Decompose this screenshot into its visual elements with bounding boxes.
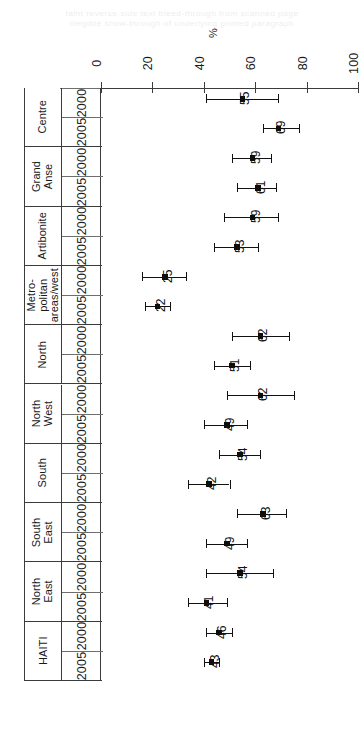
year-label: 2005 xyxy=(75,592,89,621)
data-point-value-label: 61 xyxy=(254,180,268,194)
error-bar-cap xyxy=(227,598,228,607)
error-bar-cap xyxy=(188,598,189,607)
region-group-row: SouthEast20002005 xyxy=(25,503,102,562)
data-point-value-label: 42 xyxy=(205,477,219,491)
year-cell: 2005 xyxy=(62,592,103,621)
data-point-value-label: 46 xyxy=(215,625,229,639)
x-axis-tick-label: 60 xyxy=(244,43,258,83)
year-cell: 2005 xyxy=(62,236,103,265)
year-cell: 2000 xyxy=(62,325,103,354)
region-group-row: Metro-politanareas/west20002005 xyxy=(25,266,102,325)
year-column: 20002005 xyxy=(61,503,102,561)
error-bar-cap xyxy=(247,539,248,548)
error-bar-cap xyxy=(271,154,272,163)
error-bar-line xyxy=(206,633,232,634)
data-point-marker xyxy=(250,215,256,221)
data-point-value-label: 62 xyxy=(256,388,270,402)
data-point-value-label: 59 xyxy=(249,150,263,164)
data-point-marker xyxy=(237,570,243,576)
year-cell: 2000 xyxy=(62,503,103,532)
error-bar-cap xyxy=(219,658,220,667)
year-cell: 2005 xyxy=(62,295,103,324)
error-bar-cap xyxy=(214,243,215,252)
error-bar-cap xyxy=(206,539,207,548)
year-label: 2005 xyxy=(75,474,89,503)
data-point-marker xyxy=(224,541,230,547)
year-label: 2005 xyxy=(75,355,89,384)
year-cell: 2000 xyxy=(62,147,103,176)
error-bar-cap xyxy=(250,361,251,370)
x-axis-tick xyxy=(204,82,205,93)
data-point-value-label: 49 xyxy=(223,536,237,550)
region-name-label: Centre xyxy=(25,88,61,146)
year-cell: 2000 xyxy=(62,266,103,295)
data-point-marker xyxy=(224,422,230,428)
error-bar-cap xyxy=(278,213,279,222)
error-bar-line xyxy=(188,484,229,485)
year-cell: 2005 xyxy=(62,117,103,146)
year-label: 2005 xyxy=(75,236,89,265)
year-column: 20002005 xyxy=(61,325,102,383)
year-cell: 2005 xyxy=(62,354,103,383)
region-name-label: South xyxy=(25,444,61,502)
error-bar-cap xyxy=(224,213,225,222)
error-bar-cap xyxy=(263,124,264,133)
data-point-marker xyxy=(258,333,264,339)
year-column: 20002005 xyxy=(61,266,102,324)
year-label: 2000 xyxy=(75,88,89,117)
error-bar-line xyxy=(237,514,286,515)
year-cell: 2000 xyxy=(62,562,103,591)
data-point-marker xyxy=(206,481,212,487)
year-label: 2000 xyxy=(75,622,89,651)
year-label: 2000 xyxy=(75,148,89,177)
error-bar-line xyxy=(224,217,278,218)
year-label: 2005 xyxy=(75,533,89,562)
data-point-marker xyxy=(276,126,282,132)
data-point-value-label: 59 xyxy=(249,210,263,224)
error-bar-line xyxy=(188,603,227,604)
year-cell: 2005 xyxy=(62,651,103,680)
error-bar-cap xyxy=(237,183,238,192)
region-group-row: HAITI20002005 xyxy=(25,622,102,681)
data-point-marker xyxy=(258,393,264,399)
year-cell: 2000 xyxy=(62,88,103,117)
error-bar-cap xyxy=(294,391,295,400)
year-label: 2005 xyxy=(75,652,89,681)
data-point-marker xyxy=(155,304,161,310)
data-point-marker xyxy=(162,274,168,280)
year-label: 2000 xyxy=(75,563,89,592)
year-cell: 2005 xyxy=(62,532,103,561)
error-bar-cap xyxy=(142,272,143,281)
error-bar-cap xyxy=(278,94,279,103)
data-point-value-label: 43 xyxy=(208,654,222,668)
x-axis-tick-label: 20 xyxy=(141,43,155,83)
year-column: 20002005 xyxy=(61,622,102,680)
x-axis-tick-label: 100 xyxy=(347,43,361,83)
error-bar-line xyxy=(206,544,247,545)
error-bar-line xyxy=(232,158,271,159)
data-point-value-label: 55 xyxy=(238,91,252,105)
chart-figure: faint reverse-side text bleed-through fr… xyxy=(0,0,364,753)
data-point-value-label: 51 xyxy=(228,358,242,372)
error-bar-cap xyxy=(206,628,207,637)
error-bar-cap xyxy=(276,183,277,192)
x-axis-line xyxy=(101,88,358,89)
row-label-table: Centre20002005GrandAnse20002005Artibonit… xyxy=(24,88,101,681)
year-column: 20002005 xyxy=(61,88,102,146)
error-bar-line xyxy=(214,366,250,367)
error-bar-cap xyxy=(286,509,287,518)
data-point-value-label: 69 xyxy=(274,121,288,135)
data-point-marker xyxy=(237,452,243,458)
year-column: 20002005 xyxy=(61,562,102,620)
region-name-label: North xyxy=(25,325,61,383)
error-bar-cap xyxy=(188,480,189,489)
year-label: 2000 xyxy=(75,207,89,236)
error-bar-line xyxy=(232,336,289,337)
data-point-value-label: 49 xyxy=(223,417,237,431)
year-label: 2005 xyxy=(75,414,89,443)
year-cell: 2000 xyxy=(62,207,103,236)
region-name-label: Metro-politanareas/west xyxy=(25,266,61,324)
error-bar-line xyxy=(206,573,273,574)
year-label: 2000 xyxy=(75,325,89,354)
x-axis-tick xyxy=(358,82,359,93)
